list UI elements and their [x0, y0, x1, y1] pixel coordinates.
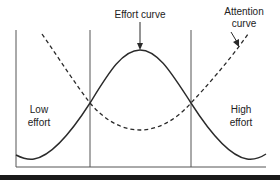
attention-curve-label-line1: Attention — [224, 6, 263, 17]
bottom-rule — [0, 175, 280, 180]
effort-attention-diagram: Effort curve Attention curve Low effort … — [0, 0, 280, 181]
low-effort-label-line1: Low — [30, 104, 49, 115]
effort-arrow-head-icon — [137, 43, 143, 50]
attention-curve-label-line2: curve — [232, 18, 257, 29]
high-effort-label-line1: High — [231, 104, 252, 115]
high-effort-label-line2: effort — [230, 117, 253, 128]
effort-curve-label: Effort curve — [115, 9, 166, 20]
low-effort-label-line2: effort — [28, 117, 51, 128]
effort-curve — [16, 50, 266, 159]
attention-curve — [42, 34, 248, 130]
